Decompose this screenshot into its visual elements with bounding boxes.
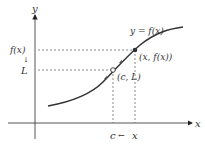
curve-arrow-icon [119, 60, 122, 64]
curve-label: y = f(x) [129, 26, 164, 36]
fx-left-label: f(x) [9, 45, 26, 55]
y-axis-label: y [31, 3, 38, 14]
limit-diagram: y x y = f(x) f(x) ↓ L (x, f(x)) (c, L) c… [0, 0, 205, 144]
moving-point-label: (x, f(x)) [139, 52, 173, 62]
moving-point-filled [133, 48, 138, 53]
x-bottom-label: x [132, 130, 138, 141]
L-left-label: L [20, 65, 28, 76]
down-arrow-icon: ↓ [23, 56, 29, 64]
limit-point-label: (c, L) [117, 72, 141, 82]
c-bottom-label: c [110, 130, 116, 141]
x-axis-label: x [195, 118, 201, 129]
left-arrow-icon: ← [118, 131, 125, 140]
function-curve [48, 27, 183, 106]
limit-point-open [111, 68, 116, 73]
curve-arrow-icon [104, 76, 107, 80]
